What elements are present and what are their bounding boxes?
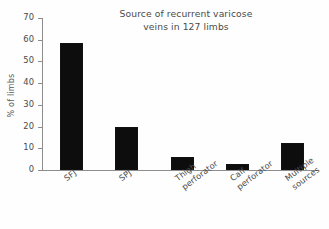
y-tick: 60 (38, 40, 42, 41)
y-tick: 40 (38, 83, 42, 84)
y-tick: 50 (38, 61, 42, 62)
y-tick-label: 60 (23, 34, 34, 44)
bar (60, 43, 83, 170)
y-tick-label: 20 (23, 121, 34, 131)
bar-chart-figure: Source of recurrent varicose veins in 12… (0, 0, 329, 229)
y-tick: 70 (38, 18, 42, 19)
plot-area: 010203040506070 SFJSPJThigh perforatorCa… (42, 18, 318, 170)
y-axis-line (42, 18, 43, 171)
x-tick-label: Thigh perforator (173, 149, 220, 192)
bar (115, 127, 138, 170)
y-tick-label: 50 (23, 55, 34, 65)
y-tick: 30 (38, 105, 42, 106)
y-tick: 0 (38, 170, 42, 171)
y-tick: 10 (38, 148, 42, 149)
y-tick-label: 40 (23, 77, 34, 87)
y-axis-label: % of limbs (7, 66, 16, 126)
y-tick-label: 30 (23, 99, 34, 109)
y-tick: 20 (38, 127, 42, 128)
x-tick-label: Calf perforator (228, 149, 275, 192)
y-tick-label: 0 (29, 164, 34, 174)
y-tick-label: 70 (23, 12, 34, 22)
y-tick-label: 10 (23, 142, 34, 152)
